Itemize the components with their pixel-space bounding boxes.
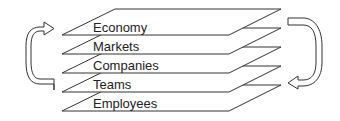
layer-label-companies: Companies [93,59,159,73]
right-cycle-arrow-icon [288,18,322,89]
left-cycle-arrow-icon [26,22,54,90]
layer-label-teams: Teams [93,78,131,92]
layer-label-employees: Employees [93,97,157,111]
layer-stack-diagram: Economy Markets Companies Teams Employee… [0,0,340,121]
layer-label-economy: Economy [93,21,147,35]
layer-label-markets: Markets [93,40,139,54]
diagram-graphics [0,0,340,121]
